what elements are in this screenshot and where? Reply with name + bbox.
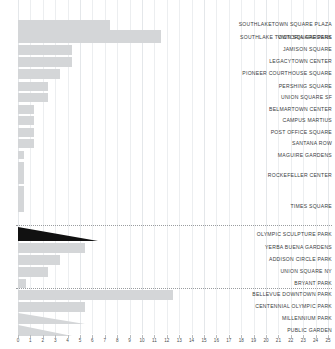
- bar: [18, 243, 85, 253]
- x-axis-tick-label: 24: [313, 338, 318, 343]
- gridline: [229, 0, 230, 334]
- x-axis-tick-label: 4: [66, 338, 69, 343]
- x-axis-tick-label: 8: [116, 338, 119, 343]
- x-axis-tick-label: 0: [17, 338, 20, 343]
- x-axis-tick-label: 23: [301, 338, 306, 343]
- category-label: BRYANT PARK: [294, 280, 332, 286]
- bar: [18, 290, 173, 300]
- gridline: [92, 0, 93, 334]
- category-label: CAMPUS MARTIUS: [282, 117, 332, 123]
- bar: [18, 32, 85, 42]
- x-axis-tick-label: 3: [54, 338, 57, 343]
- category-label: JAMISON SQUARE: [283, 46, 332, 52]
- category-label: BELLEVUE DOWNTOWN PARK: [252, 291, 332, 297]
- bar: [18, 267, 48, 277]
- x-axis: 0123456789101112131415161718192021222324…: [0, 334, 335, 349]
- x-axis-tick-label: 2: [42, 338, 45, 343]
- gridline: [266, 0, 267, 334]
- x-axis-tick-label: 1: [29, 338, 32, 343]
- category-label: SOUTHLAKETOWN SQUARE PLAZA: [239, 21, 332, 27]
- x-axis-tick-label: 22: [288, 338, 293, 343]
- group-separator: [16, 225, 332, 226]
- category-label: UNION SQUARE NY: [280, 268, 332, 274]
- x-axis-tick-label: 18: [239, 338, 244, 343]
- gridline: [154, 0, 155, 334]
- bar: [18, 279, 26, 288]
- horizontal-bar-chart: SOUTHLAKE TOWN SQUARE PARKSOUTHLAKETOWN …: [0, 0, 335, 349]
- gridline: [241, 0, 242, 334]
- category-label: ROCKEFELLER CENTER: [268, 172, 332, 178]
- category-label: OLYMPIC SCULPTURE PARK: [257, 231, 332, 237]
- category-label: MILLENNIUM PARK: [282, 315, 332, 321]
- bar: [18, 69, 60, 79]
- bar: [18, 313, 85, 324]
- bar: [18, 20, 110, 30]
- bar: [18, 45, 72, 55]
- bar: [18, 139, 34, 148]
- gridline: [179, 0, 180, 334]
- x-axis-tick-label: 25: [325, 338, 330, 343]
- bar: [18, 116, 34, 125]
- gridline: [278, 0, 279, 334]
- gridline: [130, 0, 131, 334]
- x-axis-tick-label: 14: [189, 338, 194, 343]
- group-separator: [16, 288, 332, 289]
- gridline: [192, 0, 193, 334]
- bar-fill: [18, 227, 98, 241]
- x-axis-tick-label: 16: [214, 338, 219, 343]
- x-axis-tick-label: 10: [139, 338, 144, 343]
- category-label: MAGUIRE GARDENS: [278, 152, 332, 158]
- x-axis-tick-label: 21: [276, 338, 281, 343]
- bar: [18, 93, 48, 102]
- category-label: VICTORIA GARDENS: [278, 34, 332, 40]
- category-label: LEGACYTOWN CENTER: [269, 58, 332, 64]
- category-label: PIONEER COURTHOUSE SQUARE: [242, 70, 332, 76]
- bar: [18, 151, 24, 159]
- x-axis-tick-label: 13: [177, 338, 182, 343]
- category-label: PUBLIC GARDEN: [287, 327, 332, 333]
- category-label: BELMARTOWN CENTER: [269, 106, 332, 112]
- category-label: TIMES SQUARE: [291, 203, 333, 209]
- bar: [18, 82, 48, 91]
- bar: [18, 57, 72, 67]
- x-axis-tick-label: 19: [251, 338, 256, 343]
- category-label: ADDISON CIRCLE PARK: [269, 256, 332, 262]
- x-axis-tick-label: 9: [128, 338, 131, 343]
- bar-fill: [18, 313, 85, 324]
- category-label: PERSHING SQUARE: [279, 83, 332, 89]
- category-label: YERBA BUENA GARDENS: [265, 244, 332, 250]
- gridline: [216, 0, 217, 334]
- gridline: [254, 0, 255, 334]
- x-axis-tick-label: 15: [201, 338, 206, 343]
- x-axis-tick-label: 12: [164, 338, 169, 343]
- category-label: POST OFFICE SQUARE: [271, 129, 332, 135]
- x-axis-tick-label: 5: [79, 338, 82, 343]
- x-axis-tick-label: 11: [152, 338, 157, 343]
- gridline: [105, 0, 106, 334]
- gridline: [204, 0, 205, 334]
- gridline: [80, 0, 81, 334]
- category-label: UNION SQUARE SF: [281, 94, 332, 100]
- category-label: SANTANA ROW: [292, 140, 332, 146]
- bar: [18, 227, 98, 241]
- category-label: CENTENNIAL OLYMPIC PARK: [255, 303, 332, 309]
- bar: [18, 105, 34, 114]
- gridline: [142, 0, 143, 334]
- x-axis-tick-label: 6: [91, 338, 94, 343]
- bar: [18, 255, 60, 265]
- bar: [18, 128, 34, 137]
- x-axis-tick-label: 20: [263, 338, 268, 343]
- bar: [18, 162, 24, 184]
- gridline: [167, 0, 168, 334]
- x-axis-tick-label: 7: [104, 338, 107, 343]
- x-axis-tick-label: 17: [226, 338, 231, 343]
- bar: [18, 186, 24, 212]
- gridline: [117, 0, 118, 334]
- bar: [18, 302, 85, 312]
